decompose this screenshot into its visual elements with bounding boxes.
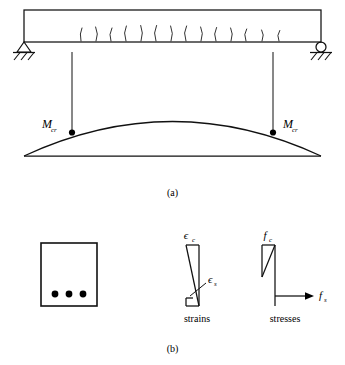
epsilon-c-symbol: ϵ	[184, 229, 189, 241]
stresses-caption: stresses	[270, 313, 301, 324]
panel-a: M cr M cr (a)	[13, 10, 332, 199]
epsilon-c-label: ϵ c	[184, 229, 196, 244]
mcr-label-left-sub: cr	[51, 126, 57, 134]
panel-a-caption: (a)	[167, 187, 178, 199]
mcr-label-right: M cr	[282, 117, 298, 134]
epsilon-s-label: ϵ s	[208, 273, 217, 288]
roller-support-right	[310, 42, 332, 60]
figure-container: M cr M cr (a)	[0, 0, 345, 365]
engineering-figure: M cr M cr (a)	[0, 0, 345, 365]
mcr-label-left: M cr	[41, 117, 57, 134]
panel-b: ϵ c ϵ s strains	[41, 229, 327, 355]
epsilon-s-sub: s	[214, 280, 217, 288]
panel-b-caption: (b)	[167, 343, 179, 355]
beam-outline	[24, 10, 321, 42]
rebar-dot-1	[52, 291, 59, 298]
rebar-dot-2	[66, 291, 73, 298]
mcr-dot-left	[69, 129, 75, 135]
fc-symbol: f	[263, 229, 268, 241]
flexural-cracks-group	[80, 26, 279, 42]
epsilon-c-sub: c	[192, 236, 196, 244]
mcr-dot-right	[270, 129, 276, 135]
stress-diagram: f c f s stresses	[262, 229, 327, 324]
rebar-dot-3	[80, 291, 87, 298]
epsilon-s-symbol: ϵ	[208, 273, 213, 285]
fc-label: f c	[263, 229, 273, 244]
fs-arrowhead	[305, 292, 314, 300]
beam-cross-section	[41, 243, 97, 306]
fs-label: f s	[319, 289, 327, 304]
fs-sub: s	[324, 296, 327, 304]
strain-diagram: ϵ c ϵ s strains	[184, 229, 217, 324]
pin-support-left	[13, 42, 35, 60]
strains-caption: strains	[184, 313, 210, 324]
fc-sub: c	[269, 236, 273, 244]
mcr-label-right-sub: cr	[292, 126, 298, 134]
moment-diagram	[24, 122, 321, 157]
projection-lines	[72, 52, 273, 132]
